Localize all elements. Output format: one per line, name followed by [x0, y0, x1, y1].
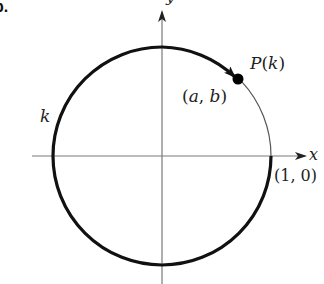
- arc-length-label: k: [40, 106, 50, 126]
- y-axis-label: y: [165, 0, 175, 6]
- unit-circle-diagram: b. y x P(k) (a, b) k (1, 0): [0, 0, 324, 284]
- point-coords-label: (a, b): [182, 86, 227, 106]
- part-label: b.: [0, 0, 8, 15]
- unit-circle-thin-arc: [242, 82, 271, 156]
- point-p: [233, 74, 244, 85]
- start-point-label: (1, 0): [274, 166, 317, 185]
- point-p-label: P(k): [249, 53, 285, 73]
- x-axis-label: x: [309, 145, 318, 164]
